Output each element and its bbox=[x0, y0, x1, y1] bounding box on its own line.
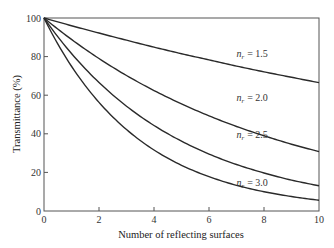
curve-label: nr= 3.0 bbox=[237, 177, 268, 190]
y-tick-label: 0 bbox=[36, 206, 41, 217]
x-tick-label: 0 bbox=[42, 214, 47, 225]
x-axis-label: Number of reflecting surfaces bbox=[118, 229, 244, 240]
y-tick-label: 80 bbox=[31, 51, 41, 62]
curve-label: nr= 1.5 bbox=[237, 48, 268, 61]
x-tick-label: 2 bbox=[97, 214, 102, 225]
curve-30 bbox=[44, 18, 319, 200]
plot-frame bbox=[44, 18, 319, 211]
y-tick-label: 100 bbox=[26, 13, 41, 24]
x-tick-label: 8 bbox=[262, 214, 267, 225]
y-tick-label: 20 bbox=[31, 167, 41, 178]
curves bbox=[44, 18, 319, 200]
x-tick-label: 10 bbox=[314, 214, 324, 225]
curve-label: nr= 2.0 bbox=[237, 92, 268, 105]
curve-15 bbox=[44, 18, 319, 83]
curve-label: nr= 2.5 bbox=[237, 129, 268, 142]
y-tick-label: 60 bbox=[31, 90, 41, 101]
x-axis-ticks: 0246810 bbox=[42, 207, 325, 225]
transmittance-chart: 020406080100 0246810 nr= 1.5nr= 2.0nr= 2… bbox=[0, 0, 334, 248]
x-tick-label: 4 bbox=[152, 214, 157, 225]
y-axis-ticks: 020406080100 bbox=[26, 13, 48, 217]
y-tick-label: 40 bbox=[31, 128, 41, 139]
y-axis-label: Transmittance (%) bbox=[11, 74, 23, 153]
x-tick-label: 6 bbox=[207, 214, 212, 225]
curve-25 bbox=[44, 18, 319, 186]
